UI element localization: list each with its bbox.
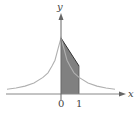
labels-svg: y x 0 1 <box>0 0 140 114</box>
x-axis-label: x <box>128 88 134 99</box>
figure: y x 0 1 <box>0 0 140 114</box>
tick-label-1: 1 <box>76 98 82 109</box>
y-axis-label: y <box>56 1 63 12</box>
tick-label-0: 0 <box>58 98 64 109</box>
